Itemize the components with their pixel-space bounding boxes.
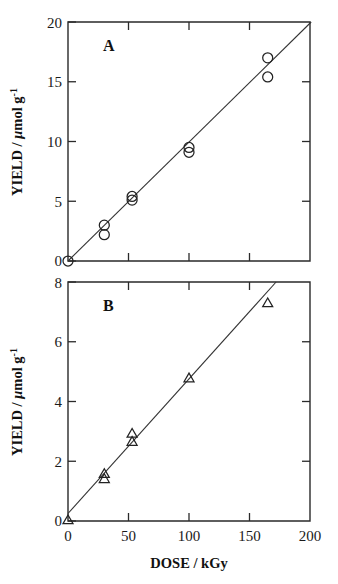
panel-a: 0 5 10 15 20 A YIELD	[8, 15, 311, 270]
data-point	[99, 230, 109, 240]
panel-b-x-ticks	[129, 513, 250, 521]
panel-a-x-ticks-top	[129, 22, 250, 30]
y-title-main-b: YIELD /	[9, 399, 25, 456]
x-axis-title: DOSE / kGy	[150, 555, 228, 571]
panel-a-y-ticks-right	[302, 82, 310, 202]
figure-container: 0 5 10 15 20 A YIELD	[0, 0, 338, 584]
panel-b-ytick-8: 8	[55, 275, 63, 291]
y-title-sup: -1	[8, 88, 19, 96]
panel-b-y-axis-title: YIELD / μmol g-1	[8, 348, 25, 456]
y-title-sup-b: -1	[8, 348, 19, 356]
panel-b-xtick-150: 150	[238, 528, 261, 544]
panel-b-ytick-4: 4	[55, 394, 63, 410]
panel-a-ytick-15: 15	[47, 74, 62, 90]
panel-b-ytick-0: 0	[55, 513, 63, 529]
panel-b-label: B	[103, 297, 114, 314]
panel-a-ytick-20: 20	[47, 15, 62, 31]
panel-b-y-ticks-right	[302, 342, 310, 462]
y-title-mu-b: μ	[9, 391, 25, 400]
panel-a-fit-line	[68, 22, 311, 261]
panel-b: 0 2 4 6 8 0 50 100 150 200 B	[8, 275, 321, 572]
panel-b-ytick-6: 6	[55, 334, 63, 350]
data-point	[263, 72, 273, 82]
panel-b-x-ticks-top	[129, 282, 250, 290]
panel-a-y-ticks	[68, 22, 76, 261]
panel-a-data-points	[63, 53, 273, 266]
chart-svg: 0 5 10 15 20 A YIELD	[0, 0, 338, 584]
panel-a-ytick-10: 10	[47, 134, 62, 150]
y-title-unit: mol g	[9, 96, 25, 131]
data-point	[263, 298, 273, 307]
panel-a-y-axis-title: YIELD / μmol g-1	[8, 88, 25, 196]
panel-b-ytick-2: 2	[55, 454, 63, 470]
panel-b-y-ticks	[68, 282, 76, 521]
y-title-main: YIELD /	[9, 139, 25, 196]
panel-a-ytick-5: 5	[55, 194, 63, 210]
panel-b-xtick-200: 200	[299, 528, 322, 544]
panel-b-fit-line	[68, 282, 276, 514]
panel-b-xtick-50: 50	[121, 528, 136, 544]
panel-a-label: A	[103, 37, 115, 54]
panel-b-frame	[68, 282, 310, 521]
panel-b-xtick-0: 0	[64, 528, 72, 544]
panel-a-ytick-0: 0	[55, 253, 63, 269]
y-title-unit-b: mol g	[9, 356, 25, 391]
data-point	[263, 53, 273, 63]
panel-b-xtick-100: 100	[178, 528, 201, 544]
y-title-mu: μ	[9, 131, 25, 140]
panel-b-data-points	[63, 298, 273, 524]
panel-a-x-ticks	[129, 253, 250, 261]
